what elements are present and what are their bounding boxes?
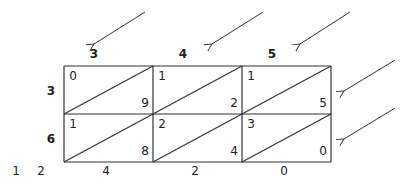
lattice-svg [0, 0, 404, 187]
diagonal-arrow-icon [212, 12, 263, 44]
diagonal-arrow-icon [344, 108, 395, 139]
cell-units-digit: 9 [141, 97, 149, 109]
cell-tens-digit: 1 [158, 70, 166, 82]
cell-diagonal [64, 114, 153, 162]
cell-diagonal [153, 66, 242, 114]
cell-diagonal [153, 114, 242, 162]
cell-tens-digit: 1 [247, 70, 255, 82]
cell-units-digit: 4 [230, 145, 238, 157]
cell-diagonal [242, 114, 331, 162]
result-digit: 0 [280, 165, 288, 177]
diagonal-arrow-icon [344, 60, 395, 91]
result-digit: 2 [191, 165, 199, 177]
result-digit: 1 [12, 165, 20, 177]
cell-diagonal [242, 66, 331, 114]
cell-diagonal [64, 66, 153, 114]
cell-tens-digit: 0 [69, 70, 77, 82]
cell-units-digit: 0 [319, 145, 327, 157]
cell-units-digit: 2 [230, 97, 238, 109]
top-digit: 5 [268, 48, 276, 60]
result-digit: 2 [37, 165, 45, 177]
top-digit: 4 [179, 48, 187, 60]
top-digit: 3 [90, 48, 98, 60]
result-digit: 4 [102, 165, 110, 177]
diagonal-arrow-icon [94, 12, 145, 44]
left-digit: 6 [47, 133, 55, 145]
cell-units-digit: 8 [141, 145, 149, 157]
left-digit: 3 [47, 85, 55, 97]
cell-tens-digit: 2 [158, 118, 166, 130]
cell-tens-digit: 3 [247, 118, 255, 130]
cell-tens-digit: 1 [69, 118, 77, 130]
cell-units-digit: 5 [319, 97, 327, 109]
diagonal-arrow-icon [300, 12, 350, 44]
